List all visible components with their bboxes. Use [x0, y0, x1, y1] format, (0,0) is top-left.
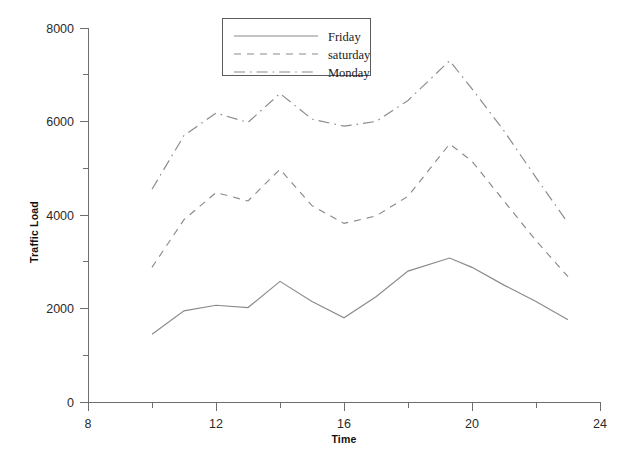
chart-canvas: 02000400060008000 812162024 Time Traffic…	[0, 0, 637, 455]
data-series-group	[152, 61, 568, 334]
line-chart: 02000400060008000 812162024 Time Traffic…	[0, 0, 637, 455]
x-tick-label: 24	[593, 417, 607, 431]
y-tick-label: 0	[67, 396, 74, 410]
series-line-monday	[152, 61, 568, 223]
y-tick-label: 4000	[46, 209, 74, 223]
x-axis-ticks	[88, 402, 600, 411]
x-tick-label: 16	[337, 417, 351, 431]
legend-label-monday: Monday	[328, 66, 370, 80]
y-axis-title: Traffic Load	[28, 201, 40, 263]
x-axis-title: Time	[331, 433, 356, 445]
axes	[88, 28, 600, 402]
x-axis-tick-labels: 812162024	[85, 417, 607, 431]
y-tick-label: 8000	[46, 22, 74, 36]
y-axis-tick-labels: 02000400060008000	[46, 22, 74, 410]
x-tick-label: 20	[465, 417, 479, 431]
legend-label-friday: Friday	[328, 30, 361, 44]
legend-label-saturday: saturday	[328, 48, 371, 62]
x-tick-label: 12	[209, 417, 223, 431]
x-tick-label: 8	[85, 417, 92, 431]
series-line-friday	[152, 258, 568, 334]
y-axis-ticks	[80, 28, 88, 402]
series-line-saturday	[152, 144, 568, 277]
y-tick-label: 2000	[46, 302, 74, 316]
chart-legend: FridaysaturdayMonday	[222, 18, 371, 80]
y-tick-label: 6000	[46, 115, 74, 129]
